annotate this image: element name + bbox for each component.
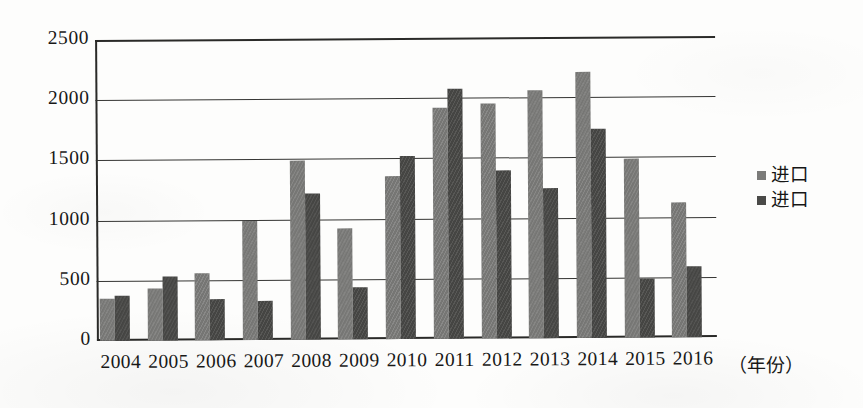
bar-group bbox=[143, 39, 193, 340]
bar-group bbox=[238, 39, 288, 340]
bar-group bbox=[381, 38, 431, 339]
bar-group bbox=[477, 37, 527, 338]
bar bbox=[447, 89, 464, 339]
bar bbox=[162, 276, 177, 340]
y-axis-tick-labels: 05001000150020002500 bbox=[17, 38, 91, 339]
bar bbox=[575, 72, 592, 338]
bar bbox=[305, 193, 321, 339]
bar bbox=[353, 287, 368, 339]
y-axis-tick-label: 2500 bbox=[48, 27, 90, 49]
x-axis-tick-label: 2014 bbox=[577, 348, 618, 370]
bar-group bbox=[334, 38, 384, 339]
bar bbox=[639, 279, 654, 338]
y-axis-tick-label: 0 bbox=[80, 328, 90, 350]
plot-area bbox=[95, 36, 717, 341]
legend-item-label: 进口 bbox=[771, 166, 809, 185]
chart-legend: 进口进口 bbox=[757, 163, 857, 213]
bar bbox=[290, 160, 306, 339]
bar-group bbox=[190, 39, 240, 340]
x-axis-tick-label: 2013 bbox=[530, 348, 571, 370]
bar bbox=[115, 296, 130, 341]
bar bbox=[480, 104, 496, 339]
bar bbox=[147, 288, 162, 340]
bar-group bbox=[667, 36, 717, 337]
x-axis-tick-label: 2012 bbox=[482, 349, 523, 371]
x-axis-tick-label: 2005 bbox=[148, 351, 189, 373]
bar bbox=[687, 266, 702, 337]
grouped-bar-chart: 05001000150020002500 2004200520062007200… bbox=[0, 0, 863, 408]
bar bbox=[400, 156, 416, 339]
bar bbox=[591, 129, 607, 338]
legend-swatch-icon bbox=[757, 196, 766, 205]
x-axis-tick-label: 2006 bbox=[196, 350, 237, 372]
bar-group bbox=[524, 37, 574, 338]
legend-item[interactable]: 进口 bbox=[757, 163, 857, 188]
bar bbox=[242, 221, 258, 340]
bar bbox=[100, 299, 115, 341]
bar-groups bbox=[95, 36, 717, 341]
bar bbox=[385, 177, 401, 340]
x-axis-tick-label: 2011 bbox=[435, 349, 475, 371]
bar-group bbox=[286, 38, 336, 339]
bar bbox=[543, 188, 559, 339]
bar bbox=[623, 158, 639, 337]
x-axis-tick-label: 2015 bbox=[625, 348, 666, 370]
bar bbox=[671, 202, 687, 337]
x-axis-tick-label: 2016 bbox=[673, 347, 714, 369]
bar bbox=[338, 228, 354, 339]
bar bbox=[432, 108, 448, 339]
bar bbox=[195, 273, 210, 340]
x-axis-tick-label: 2004 bbox=[100, 351, 141, 373]
x-axis-tick-labels: 2004200520062007200820092010201120122013… bbox=[96, 347, 796, 381]
bar-group bbox=[620, 36, 670, 337]
legend-item[interactable]: 进口 bbox=[757, 188, 857, 213]
x-axis-title: （年份） bbox=[728, 350, 804, 377]
bar bbox=[495, 170, 511, 338]
y-axis-tick-label: 1500 bbox=[48, 147, 90, 169]
bar bbox=[258, 301, 273, 340]
legend-item-label: 进口 bbox=[771, 191, 809, 210]
bar-group bbox=[95, 40, 145, 341]
bar bbox=[528, 90, 545, 338]
bar bbox=[210, 299, 225, 340]
y-axis-tick-label: 500 bbox=[59, 268, 90, 290]
legend-swatch-icon bbox=[757, 171, 766, 180]
bar-group bbox=[572, 37, 622, 338]
x-axis-tick-label: 2010 bbox=[387, 349, 428, 371]
x-axis-tick-label: 2008 bbox=[291, 350, 332, 372]
x-axis-tick-label: 2007 bbox=[244, 350, 285, 372]
y-axis-tick-label: 1000 bbox=[49, 207, 91, 229]
x-axis-tick-label: 2009 bbox=[339, 349, 380, 371]
y-axis-tick-label: 2000 bbox=[48, 87, 90, 109]
bar-group bbox=[429, 38, 479, 339]
